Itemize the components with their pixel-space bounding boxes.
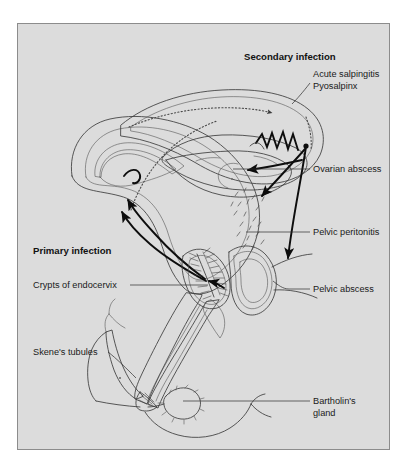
cervix-with-crypts: [182, 248, 230, 309]
label-ovarian-abscess: Ovarian abscess: [313, 164, 382, 174]
label-acute-salpingitis: Acute salpingitis: [313, 69, 380, 79]
heading-primary-infection: Primary infection: [33, 245, 112, 256]
label-layer: Secondary infection Primary infection Ac…: [33, 51, 382, 418]
pouch-of-douglas-abscess: [229, 246, 317, 315]
heading-secondary-infection: Secondary infection: [244, 51, 336, 62]
label-pyosalpinx: Pyosalpinx: [313, 81, 358, 91]
bartholin-gland-body: [148, 385, 204, 424]
vaginal-canal: [135, 293, 225, 411]
label-skenes-tubules: Skene's tubules: [33, 347, 98, 357]
label-pelvic-abscess: Pelvic abscess: [313, 284, 374, 294]
label-crypts-of-endocervix: Crypts of endocervix: [33, 280, 117, 290]
leader-lines: [108, 83, 310, 401]
figure-root: Secondary infection Primary infection Ac…: [0, 0, 408, 470]
label-bartholins-gland-line-1: Bartholin's: [313, 396, 356, 406]
label-pelvic-peritonitis: Pelvic peritonitis: [313, 227, 380, 237]
leader-pelvic-abscess: [273, 281, 310, 289]
label-bartholins-gland-line-2: gland: [313, 408, 335, 418]
leader-acute-salpingitis: [292, 83, 310, 104]
anatomical-diagram: Secondary infection Primary infection Ac…: [0, 0, 408, 470]
tube-fimbriae: [250, 132, 298, 150]
